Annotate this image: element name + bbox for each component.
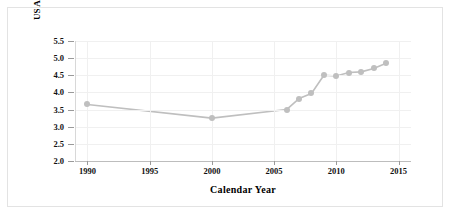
x-axis-tick-label: 2010 bbox=[316, 166, 356, 176]
x-axis-tick bbox=[87, 161, 88, 165]
data-point-marker bbox=[296, 96, 302, 102]
x-gridline bbox=[212, 41, 213, 161]
x-axis-tick bbox=[212, 161, 213, 165]
y-axis-tick-label: 2.5 bbox=[22, 140, 64, 149]
y-gridline bbox=[75, 58, 411, 59]
y-gridline bbox=[75, 92, 411, 93]
y-gridline bbox=[75, 127, 411, 128]
y-axis-tick bbox=[68, 41, 74, 42]
y-gridline bbox=[75, 144, 411, 145]
x-axis-title: Calendar Year bbox=[75, 184, 411, 195]
x-axis-tick bbox=[399, 161, 400, 165]
y-gridline bbox=[75, 110, 411, 111]
y-axis-tick bbox=[68, 58, 74, 59]
y-axis-tick bbox=[68, 161, 74, 162]
x-gridline bbox=[399, 41, 400, 161]
y-axis-tick bbox=[68, 110, 74, 111]
x-gridline bbox=[150, 41, 151, 161]
chart-frame: US Ag Imports/US Total Imports (%) Calen… bbox=[7, 7, 443, 207]
x-axis-tick bbox=[150, 161, 151, 165]
y-axis-tick bbox=[68, 127, 74, 128]
x-gridline bbox=[336, 41, 337, 161]
x-axis-line bbox=[75, 161, 411, 162]
x-axis-tick-label: 2005 bbox=[254, 166, 294, 176]
y-axis-tick-label: 3.0 bbox=[22, 123, 64, 132]
y-axis-tick-label: 5.0 bbox=[22, 54, 64, 63]
y-axis-line bbox=[75, 41, 76, 161]
y-axis-tick-label: 2.0 bbox=[22, 157, 64, 166]
y-axis-tick bbox=[68, 92, 74, 93]
x-axis-tick bbox=[274, 161, 275, 165]
data-point-marker bbox=[346, 70, 352, 76]
y-gridline bbox=[75, 41, 411, 42]
x-gridline bbox=[274, 41, 275, 161]
x-axis-tick-label: 1990 bbox=[67, 166, 107, 176]
y-axis-title: US Ag Imports/US Total Imports (%) bbox=[32, 0, 42, 20]
y-axis-tick-label: 4.0 bbox=[22, 88, 64, 97]
y-axis-tick bbox=[68, 144, 74, 145]
data-point-marker bbox=[209, 115, 215, 121]
y-gridline bbox=[75, 75, 411, 76]
y-axis-tick bbox=[68, 75, 74, 76]
data-point-marker bbox=[284, 107, 290, 113]
y-axis-tick-label: 5.5 bbox=[22, 37, 64, 46]
x-axis-tick bbox=[336, 161, 337, 165]
y-axis-tick-label: 4.5 bbox=[22, 71, 64, 80]
y-axis-tick-label: 3.5 bbox=[22, 106, 64, 115]
x-axis-tick-label: 2000 bbox=[192, 166, 232, 176]
plot-area bbox=[75, 41, 411, 161]
x-axis-tick-label: 1995 bbox=[130, 166, 170, 176]
x-axis-tick-label: 2015 bbox=[379, 166, 419, 176]
